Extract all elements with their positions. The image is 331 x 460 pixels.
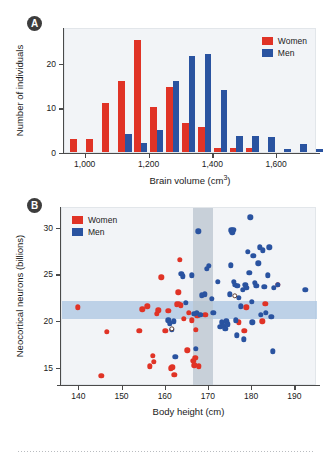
panel-b-x-ticklabel-190: 190: [276, 391, 312, 401]
panel-a-plot-area: WomenMen: [64, 28, 316, 153]
panel-b-x-ticklabel-170: 170: [190, 391, 226, 401]
scatter-point-men: [230, 227, 235, 232]
bar-men-1200: [157, 130, 164, 152]
panel-a-y-tick-0: [59, 153, 64, 154]
bar-men-1650: [300, 144, 307, 152]
scatter-point-men: [171, 319, 176, 324]
scatter-point-men: [225, 321, 230, 326]
scatter-point-women: [150, 353, 155, 358]
bar-women-1000: [86, 139, 93, 152]
legend-label-women: Women: [88, 216, 117, 225]
scatter-point-women: [181, 316, 186, 321]
bar-women-1450: [230, 148, 237, 152]
panel-a-y-ticklabel-0: 0: [0, 148, 56, 158]
scatter-point-women: [159, 275, 164, 280]
panel-b-x-tick-140: [78, 386, 79, 390]
scatter-point-men: [228, 262, 233, 267]
bar-women-1050: [102, 103, 109, 152]
legend-swatch-women: [72, 216, 83, 224]
scatter-point-men: [267, 245, 272, 250]
scatter-point-men: [251, 253, 256, 258]
panel-a-x-ticklabel-1600: 1,600: [258, 159, 294, 169]
panel-a-x-ticklabel-1000: 1,000: [67, 159, 103, 169]
bar-men-1350: [205, 54, 212, 152]
bar-women-1150: [134, 40, 141, 152]
panel-b-x-tick-190: [294, 386, 295, 390]
panel-b-y-axis-line: [60, 207, 61, 386]
panel-b-plot-area: WomenMen: [61, 207, 316, 385]
panel-b-x-tick-180: [251, 386, 252, 390]
panel-b-y-ticklabel-15: 15: [0, 363, 53, 373]
panel-b-y-ticklabel-20: 20: [0, 316, 53, 326]
panel-a-label: A: [27, 16, 42, 31]
legend-label-women: Women: [278, 37, 307, 46]
panel-b-y-ticklabel-30: 30: [0, 223, 53, 233]
panel-a-x-ticklabel-1400: 1,400: [194, 159, 230, 169]
panel-a-y-tick-10: [59, 108, 64, 109]
scatter-point-men: [223, 326, 228, 331]
panel-a-histogram: A WomenMen 010201,0001,2001,4001,600 Bra…: [0, 0, 331, 190]
panel-a-y-tick-20: [59, 64, 64, 65]
scatter-point-women: [177, 257, 182, 262]
bar-men-1250: [173, 81, 180, 152]
panel-b-x-ticklabel-180: 180: [233, 391, 269, 401]
scatter-point-men: [260, 247, 265, 252]
panel-a-y-axis-title: Number of individuals: [14, 28, 25, 153]
panel-a-x-tick-1200: [149, 154, 150, 158]
legend-swatch-men: [262, 49, 273, 57]
scatter-point-men: [275, 282, 280, 287]
scatter-point-women: [147, 364, 152, 369]
bar-women-1350: [198, 127, 205, 152]
scatter-point-women: [242, 328, 247, 333]
legend-swatch-women: [262, 37, 273, 45]
bar-men-1100: [125, 134, 132, 152]
scatter-point-men: [303, 287, 308, 292]
scatter-point-women: [170, 365, 175, 370]
scatter-point-women: [137, 328, 142, 333]
bar-women-1400: [214, 148, 221, 152]
panel-a-x-axis-title: Brain volume (cm3): [64, 174, 316, 186]
scatter-point-men: [215, 279, 220, 284]
bar-men-1300: [189, 56, 196, 152]
panel-b-x-ticklabel-160: 160: [147, 391, 183, 401]
panel-b-label: B: [27, 198, 42, 213]
bar-men-1600: [284, 149, 291, 152]
panel-b-y-ticklabel-25: 25: [0, 269, 53, 279]
scatter-point-women: [176, 290, 181, 295]
scatter-point-men: [249, 320, 254, 325]
bar-women-950: [70, 139, 77, 152]
panel-a-x-tick-1000: [85, 154, 86, 158]
scatter-point-women: [151, 359, 156, 364]
bar-women-1200: [150, 107, 157, 152]
panel-b-x-tick-160: [165, 386, 166, 390]
scatter-point-women: [99, 373, 104, 378]
panel-b-x-axis-line: [57, 385, 320, 386]
panel-a-y-ticklabel-20: 20: [0, 59, 56, 69]
scatter-point-men: [180, 274, 185, 279]
panel-b-scatter: B WomenMen 15202530140150160170180190 Bo…: [0, 190, 331, 445]
panel-b-y-tick-25: [56, 274, 61, 275]
panel-b-x-ticklabel-150: 150: [104, 391, 140, 401]
panel-a-y-ticklabel-10: 10: [0, 103, 56, 113]
figure-container: A WomenMen 010201,0001,2001,4001,600 Bra…: [0, 0, 331, 460]
scatter-point-men: [254, 283, 259, 288]
scatter-point-men: [241, 336, 246, 341]
scatter-point-men: [234, 333, 239, 338]
scatter-point-men: [265, 273, 270, 278]
legend-swatch-men: [72, 228, 83, 236]
panel-a-x-tick-1400: [212, 154, 213, 158]
scatter-point-men: [248, 215, 253, 220]
bar-women-1300: [182, 123, 189, 152]
panel-b-x-tick-150: [122, 386, 123, 390]
footer-divider: [18, 451, 314, 452]
bar-men-1150: [141, 143, 148, 152]
legend-label-men: Men: [278, 49, 295, 58]
scatter-point-men: [270, 349, 275, 354]
panel-b-x-tick-170: [208, 386, 209, 390]
panel-b-y-axis-title: Neocortical neurons (billions): [14, 207, 25, 385]
panel-a-y-axis-line: [63, 28, 64, 154]
scatter-point-women: [163, 328, 168, 333]
bar-men-1550: [268, 137, 275, 152]
bar-women-1100: [118, 81, 125, 152]
bar-women-1500: [246, 148, 253, 152]
